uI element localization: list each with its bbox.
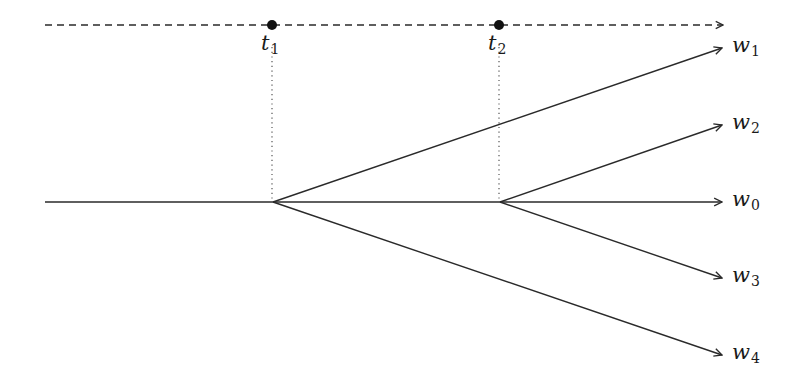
branch-label-subscript: 0	[751, 197, 760, 213]
diagram-canvas	[0, 0, 798, 385]
event-label-base: t	[488, 31, 496, 55]
branch-label-w3: w3	[732, 265, 760, 288]
branch-label-base: w	[732, 110, 750, 134]
branch-label-w4: w4	[732, 342, 760, 365]
branch-label-subscript: 4	[751, 350, 760, 366]
branch-label-base: w	[732, 33, 750, 57]
branch-label-subscript: 1	[751, 43, 760, 59]
event-label-subscript: 2	[497, 41, 506, 57]
event-label-base: t	[261, 31, 269, 55]
branch-label-subscript: 3	[751, 273, 760, 289]
event-dot-t2	[494, 20, 504, 30]
branch-arrow-w3	[500, 202, 722, 278]
branch-arrow-w2	[500, 125, 722, 202]
branch-label-w2: w2	[732, 112, 760, 135]
branch-arrow-w1	[273, 48, 722, 202]
branch-label-w0: w0	[732, 189, 760, 212]
event-label-t2: t2	[488, 33, 506, 56]
event-label-t1: t1	[261, 33, 279, 56]
branch-label-base: w	[732, 263, 750, 287]
event-guides	[272, 47, 499, 202]
branch-arrow-w4	[273, 202, 722, 355]
branch-label-base: w	[732, 340, 750, 364]
branch-label-w1: w1	[732, 35, 760, 58]
event-dot-t1	[267, 20, 277, 30]
branch-label-base: w	[732, 187, 750, 211]
event-label-subscript: 1	[270, 41, 279, 57]
branch-label-subscript: 2	[751, 120, 760, 136]
